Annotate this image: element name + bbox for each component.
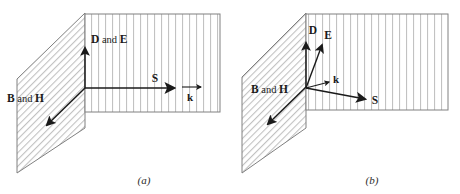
s-vector-label-b: S xyxy=(372,94,378,106)
bh-vector-label-b: B and H xyxy=(251,83,288,95)
panel-b-caption: (b) xyxy=(366,174,379,187)
wave-vectors-figure: D and E S k B and H (a) D E k S B and H … xyxy=(0,0,460,194)
s-vector-label-a: S xyxy=(152,72,158,84)
de-vector-label: D and E xyxy=(91,33,128,45)
de-plane-rectangle-a xyxy=(85,14,220,112)
panel-a: D and E S k B and H (a) xyxy=(7,13,220,187)
e-vector-label: E xyxy=(324,29,332,41)
figure-canvas: D and E S k B and H (a) D E k S B and H … xyxy=(0,0,460,194)
panel-a-caption: (a) xyxy=(138,174,151,187)
bh-vector-label-a: B and H xyxy=(7,92,44,104)
k-vector-label-a: k xyxy=(187,91,194,103)
k-vector-label-b: k xyxy=(333,73,340,85)
panel-b: D E k S B and H (b) xyxy=(242,13,448,187)
d-vector-label: D xyxy=(309,24,317,36)
